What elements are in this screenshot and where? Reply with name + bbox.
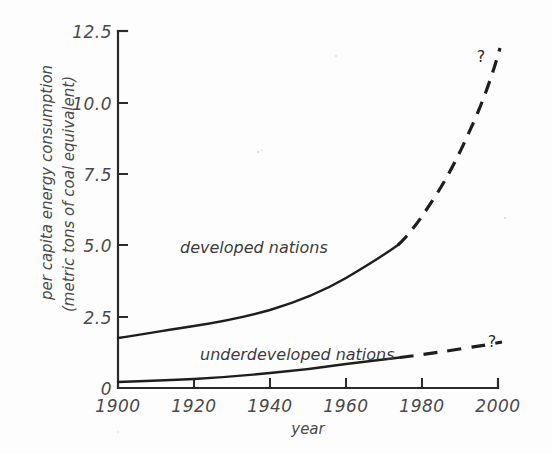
underdeveloped-nations-curve-projected xyxy=(400,342,502,358)
y-tick-label-5-0: 5.0 xyxy=(83,236,112,256)
x-tick-label-2000: 2000 xyxy=(475,396,520,416)
x-axis-title: year xyxy=(290,420,325,438)
y-tick-label-7-5: 7.5 xyxy=(83,165,112,185)
y-tick-label-2-5: 2.5 xyxy=(83,308,112,328)
y-axis-title-line2: (metric tons of coal equivalent) xyxy=(60,76,78,312)
x-tick-label-1920: 1920 xyxy=(171,396,216,416)
y-axis-ticks xyxy=(118,103,128,317)
series-label-developed-nations: developed nations xyxy=(180,238,328,257)
annotation-question-mark-underdeveloped: ? xyxy=(488,332,497,351)
x-tick-label-1900: 1900 xyxy=(95,396,140,416)
series-label-underdeveloped-nations: underdeveloped nations xyxy=(200,345,395,364)
developed-nations-curve-projected xyxy=(398,48,500,245)
x-tick-label-1980: 1980 xyxy=(399,396,444,416)
developed-nations-curve-solid xyxy=(118,245,398,338)
x-tick-label-1940: 1940 xyxy=(247,396,292,416)
x-axis-ticks xyxy=(194,378,422,388)
x-tick-label-1960: 1960 xyxy=(323,396,368,416)
energy-consumption-line-chart: 12.5 10.0 7.5 5.0 2.5 0 1900 1920 1940 1… xyxy=(0,0,552,454)
y-tick-label-12-5: 12.5 xyxy=(72,22,112,42)
y-tick-label-10-0: 10.0 xyxy=(72,94,112,114)
chart-figure: 12.5 10.0 7.5 5.0 2.5 0 1900 1920 1940 1… xyxy=(0,0,552,454)
y-axis-title-line1: per capita energy consumption xyxy=(38,65,56,301)
annotation-question-mark-developed: ? xyxy=(477,47,486,66)
